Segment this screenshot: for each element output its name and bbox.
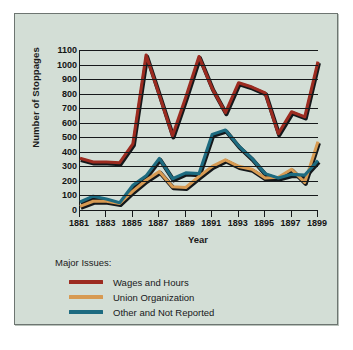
legend: Major Issues: Wages and HoursUnion Organ… bbox=[55, 257, 315, 320]
x-tick bbox=[158, 210, 159, 217]
y-tick-label: 1100 bbox=[37, 46, 77, 55]
gridline bbox=[80, 137, 318, 138]
x-tick bbox=[132, 210, 133, 217]
x-tick bbox=[317, 210, 318, 217]
x-tick-label: 1883 bbox=[95, 218, 115, 228]
x-tick bbox=[211, 210, 212, 217]
plot-wrapper: Number of Stoppages 01002003004005006007… bbox=[15, 14, 337, 324]
x-axis-title: Year bbox=[79, 234, 317, 245]
y-tick-label: 800 bbox=[37, 89, 77, 98]
x-tick bbox=[264, 210, 265, 217]
gridline bbox=[80, 108, 318, 109]
gridline bbox=[80, 181, 318, 182]
legend-entry: Union Organization bbox=[55, 290, 315, 304]
x-axis-ticks bbox=[79, 210, 317, 217]
gridline bbox=[80, 152, 318, 153]
legend-label: Wages and Hours bbox=[113, 277, 189, 288]
legend-entries: Wages and HoursUnion OrganizationOther a… bbox=[55, 275, 315, 319]
legend-label: Other and Not Reported bbox=[113, 307, 214, 318]
gridline bbox=[80, 123, 318, 124]
gridline bbox=[80, 65, 318, 66]
legend-entry: Other and Not Reported bbox=[55, 305, 315, 319]
x-tick bbox=[79, 210, 80, 217]
x-tick-label: 1889 bbox=[175, 218, 195, 228]
x-tick bbox=[291, 210, 292, 217]
x-tick-label: 1881 bbox=[69, 218, 89, 228]
y-tick-label: 500 bbox=[37, 133, 77, 142]
y-tick-label: 200 bbox=[37, 176, 77, 185]
y-tick-label: 400 bbox=[37, 147, 77, 156]
y-axis-tick-labels: 010020030040050060070080090010001100 bbox=[37, 50, 77, 210]
legend-label: Union Organization bbox=[113, 292, 194, 303]
y-tick-label: 600 bbox=[37, 118, 77, 127]
legend-color-swatch bbox=[69, 280, 103, 284]
x-tick-label: 1887 bbox=[148, 218, 168, 228]
gridline bbox=[80, 50, 318, 51]
x-tick-label: 1897 bbox=[281, 218, 301, 228]
series-lines bbox=[80, 50, 318, 210]
series-line-shadow bbox=[81, 57, 319, 165]
y-tick-label: 0 bbox=[37, 206, 77, 215]
plot-area bbox=[79, 50, 318, 211]
y-tick-label: 300 bbox=[37, 162, 77, 171]
y-tick-label: 900 bbox=[37, 75, 77, 84]
legend-entry: Wages and Hours bbox=[55, 275, 315, 289]
x-tick bbox=[185, 210, 186, 217]
x-axis-tick-labels: 1881188318851887188918911893189518971899 bbox=[79, 218, 317, 232]
gridline bbox=[80, 94, 318, 95]
x-tick-label: 1899 bbox=[307, 218, 327, 228]
x-tick bbox=[238, 210, 239, 217]
y-tick-label: 1000 bbox=[37, 60, 77, 69]
gridline bbox=[80, 166, 318, 167]
legend-color-swatch bbox=[69, 295, 103, 299]
chart-figure-panel: Number of Stoppages 01002003004005006007… bbox=[14, 13, 338, 325]
gridline bbox=[80, 79, 318, 80]
legend-color-swatch bbox=[69, 310, 103, 314]
y-tick-label: 700 bbox=[37, 104, 77, 113]
gridline bbox=[80, 195, 318, 196]
x-tick-label: 1893 bbox=[228, 218, 248, 228]
x-tick-label: 1885 bbox=[122, 218, 142, 228]
x-tick bbox=[105, 210, 106, 217]
x-tick-label: 1891 bbox=[201, 218, 221, 228]
legend-title: Major Issues: bbox=[55, 257, 315, 268]
y-tick-label: 100 bbox=[37, 191, 77, 200]
x-tick-label: 1895 bbox=[254, 218, 274, 228]
